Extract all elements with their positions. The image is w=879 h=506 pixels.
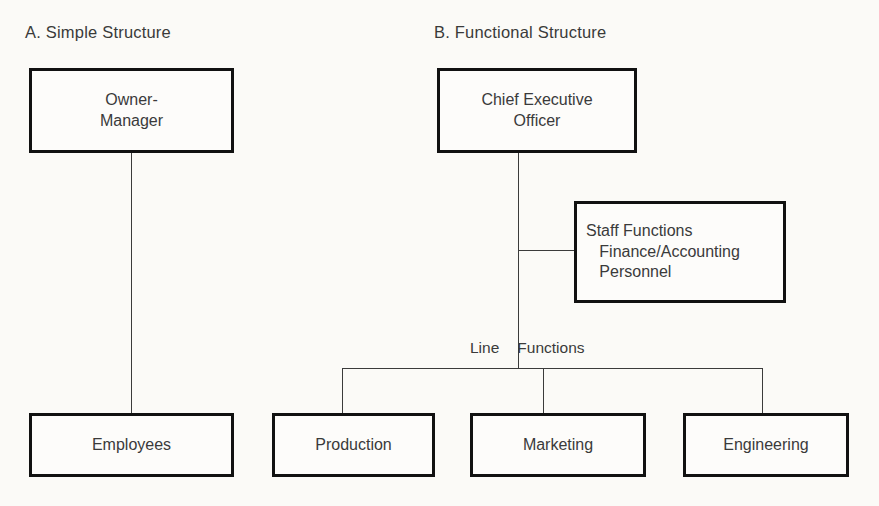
connector-owner-to-employees	[131, 153, 132, 413]
node-production-label: Production	[315, 435, 392, 455]
connector-label-line-functions-left: Line	[470, 339, 508, 356]
node-owner-manager-label: Owner- Manager	[100, 90, 163, 131]
connector-label-line-functions: LineFunctions	[470, 339, 585, 357]
connector-ceo-spine	[518, 153, 519, 369]
node-staff-functions: Staff Functions Finance/Accounting Perso…	[574, 201, 786, 303]
connector-label-line-functions-right: Functions	[508, 339, 584, 356]
node-marketing-label: Marketing	[523, 435, 593, 455]
node-chief-executive-officer-label: Chief Executive Officer	[481, 90, 592, 131]
panel-b-heading: B. Functional Structure	[434, 23, 606, 42]
node-engineering-label: Engineering	[723, 435, 808, 455]
connector-drop-marketing	[543, 368, 544, 413]
node-employees: Employees	[29, 413, 234, 477]
node-owner-manager: Owner- Manager	[29, 68, 234, 153]
connector-drop-engineering	[762, 368, 763, 413]
connector-line-functions-bar	[342, 368, 763, 369]
node-chief-executive-officer: Chief Executive Officer	[437, 68, 637, 153]
panel-a-heading: A. Simple Structure	[25, 23, 171, 42]
node-engineering: Engineering	[683, 413, 849, 477]
organizational-chart-figure: A. Simple Structure Owner- Manager Emplo…	[0, 0, 879, 506]
connector-drop-production	[342, 368, 343, 413]
node-employees-label: Employees	[92, 435, 171, 455]
connector-ceo-to-staff-functions	[518, 250, 575, 251]
node-marketing: Marketing	[470, 413, 646, 477]
node-staff-functions-label: Staff Functions Finance/Accounting Perso…	[577, 221, 740, 283]
node-production: Production	[272, 413, 435, 477]
